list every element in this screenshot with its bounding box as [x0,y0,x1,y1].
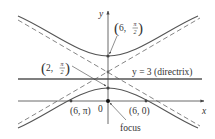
svg-text:2: 2 [134,29,137,35]
point-upper-vertex [106,54,109,57]
x-axis-label: x [201,106,207,116]
svg-text:): ) [138,20,143,37]
label-x-intercept-left: (6, π) [70,106,91,117]
hyperbola-diagram: y x 0 ( 6, π 2 ) ( 2, π 2 ) y = 3 (direc… [0,0,215,139]
point-x-intercept-right [145,100,148,103]
pointer-focus [110,103,126,120]
svg-text:2,: 2, [46,63,53,73]
svg-text:π: π [61,61,65,67]
label-lower-vertex: ( 2, π 2 ) [41,60,70,77]
point-lower-vertex [106,86,109,89]
label-x-intercept-right: (6, 0) [129,106,150,117]
svg-text:): ) [65,60,70,77]
directrix-label: y = 3 (directrix) [132,67,193,78]
svg-text:6,: 6, [119,23,126,33]
focus-label: focus [120,123,141,133]
y-axis-label: y [98,9,104,19]
point-x-intercept-left [70,100,73,103]
point-center [107,71,110,74]
point-focus [106,99,110,103]
svg-text:π: π [134,21,138,27]
label-upper-vertex: ( 6, π 2 ) [114,20,143,37]
svg-text:2: 2 [61,69,64,75]
pointer-upper-vertex [110,36,118,54]
origin-label: 0 [98,104,103,114]
